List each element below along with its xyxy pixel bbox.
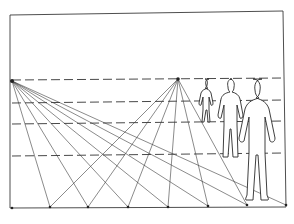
ground-point (285, 204, 288, 207)
ground-point (246, 204, 249, 207)
figure-near (239, 79, 275, 200)
figure-middle (218, 79, 243, 157)
ground-point (167, 206, 170, 209)
perspective-diagram (0, 0, 294, 224)
ray-left-vp (12, 81, 286, 205)
ground-point (87, 206, 90, 209)
horizon-line (12, 78, 285, 80)
diagram-canvas (0, 0, 294, 224)
ray-center-vp (128, 79, 178, 207)
human-figures (199, 79, 275, 200)
perspective-rays (12, 79, 286, 207)
figure-far (199, 79, 213, 122)
ray-left-vp (12, 81, 50, 207)
ray-left-vp (12, 81, 88, 207)
ground-point (127, 206, 130, 209)
vanishing-point-left (10, 79, 14, 83)
ray-center-vp (88, 79, 178, 207)
vanishing-point-center (176, 77, 180, 81)
ground-point (49, 206, 52, 209)
ground-point (11, 207, 14, 210)
ray-center-vp (168, 79, 178, 207)
ground-point (207, 205, 210, 208)
ray-left-vp (12, 81, 168, 207)
